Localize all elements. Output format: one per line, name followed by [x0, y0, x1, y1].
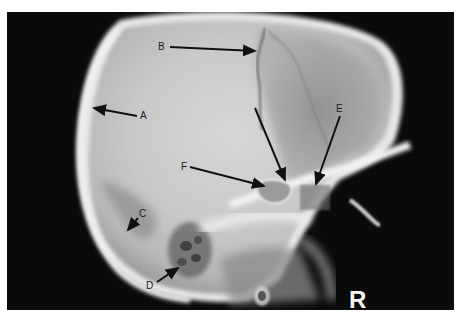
label-f: F	[181, 162, 187, 172]
label-e: E	[336, 104, 343, 114]
label-c: C	[139, 209, 146, 219]
label-a: A	[140, 111, 147, 121]
label-d: D	[146, 281, 153, 291]
svg-text:R: R	[349, 286, 366, 310]
label-b: B	[158, 42, 165, 52]
skull-radiograph: R	[7, 12, 454, 310]
r-marker: R	[347, 286, 371, 310]
xray-image: R	[7, 12, 454, 310]
